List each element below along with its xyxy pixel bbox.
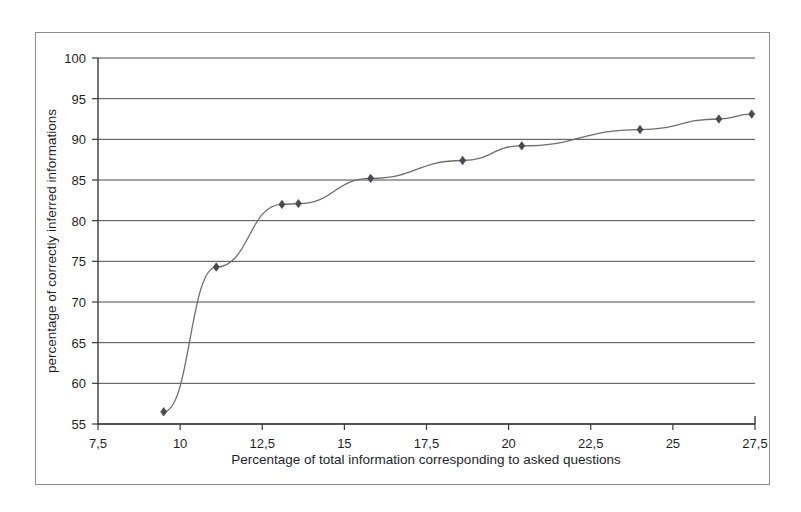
x-axis-title: Percentage of total information correspo… xyxy=(231,452,621,467)
gridlines-group xyxy=(98,58,755,424)
x-tick-label: 7,5 xyxy=(89,436,107,451)
y-tick-label: 55 xyxy=(72,417,86,432)
x-tick-label: 20 xyxy=(501,436,515,451)
x-tick-label: 27,5 xyxy=(742,436,767,451)
y-tick-label: 95 xyxy=(72,92,86,107)
x-tick-labels: 7,51012,51517,52022,52527,5 xyxy=(89,436,768,451)
y-tick-label: 60 xyxy=(72,376,86,391)
data-point-marker xyxy=(295,199,301,207)
y-tick-label: 85 xyxy=(72,173,86,188)
figure-container: 556065707580859095100 7,51012,51517,5202… xyxy=(0,0,801,512)
chart-canvas: 556065707580859095100 7,51012,51517,5202… xyxy=(0,0,801,512)
x-tick-label: 15 xyxy=(337,436,351,451)
y-tick-label: 100 xyxy=(64,51,86,66)
x-tick-label: 22,5 xyxy=(578,436,603,451)
data-point-marker xyxy=(749,110,755,118)
x-tick-label: 10 xyxy=(173,436,187,451)
x-tick-label: 17,5 xyxy=(414,436,439,451)
x-axis-ticks xyxy=(98,424,755,430)
series-path xyxy=(164,114,752,412)
data-point-marker xyxy=(716,115,722,123)
x-tick-label: 25 xyxy=(666,436,680,451)
axis-lines xyxy=(98,58,755,424)
y-axis-ticks xyxy=(92,58,98,424)
data-point-marker xyxy=(637,125,643,133)
x-tick-label: 12,5 xyxy=(250,436,275,451)
y-tick-labels: 556065707580859095100 xyxy=(64,51,86,432)
data-point-marker xyxy=(368,174,374,182)
y-axis-title: percentage of correctly inferred informa… xyxy=(44,109,59,373)
data-point-marker xyxy=(161,408,167,416)
data-point-markers xyxy=(161,110,755,416)
data-point-marker xyxy=(460,156,466,164)
data-point-marker xyxy=(279,200,285,208)
data-series-line xyxy=(164,114,752,412)
y-tick-label: 70 xyxy=(72,295,86,310)
y-tick-label: 80 xyxy=(72,214,86,229)
y-tick-label: 90 xyxy=(72,132,86,147)
y-tick-label: 65 xyxy=(72,336,86,351)
data-point-marker xyxy=(519,142,525,150)
data-point-marker xyxy=(213,263,219,271)
y-tick-label: 75 xyxy=(72,254,86,269)
